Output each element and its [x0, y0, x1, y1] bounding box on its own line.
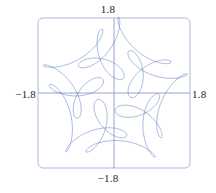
axis-label-right: 1.8	[192, 88, 216, 100]
axis-label-top: 1.8	[0, 3, 216, 15]
plot-axes	[38, 18, 190, 168]
curve-path	[43, 17, 187, 157]
axis-label-bottom: −1.8	[0, 172, 216, 184]
parametric-curve	[43, 17, 187, 157]
figure-container: 1.8 −1.8 −1.8 1.8	[0, 0, 216, 193]
axis-label-left: −1.8	[2, 88, 36, 100]
